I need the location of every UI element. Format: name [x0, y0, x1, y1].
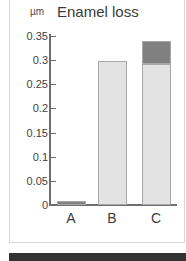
- y-axis-tick: [51, 181, 56, 182]
- y-axis-tick: [51, 108, 56, 109]
- bar-a: [57, 201, 86, 205]
- y-axis-tick: [51, 36, 56, 37]
- bottom-strip: [9, 253, 186, 261]
- y-axis-tick-label: 0.1: [33, 151, 48, 163]
- bar-segment-light-segment: [98, 61, 127, 205]
- y-axis-tick: [51, 60, 56, 61]
- y-axis-tick: [51, 157, 56, 158]
- y-axis-tick-label: 0.35: [27, 30, 48, 42]
- y-axis-tick: [51, 133, 56, 134]
- x-axis-label-a: A: [66, 210, 75, 226]
- x-axis-label-c: C: [151, 210, 161, 226]
- bar-segment-dark-segment: [142, 41, 171, 64]
- x-axis-label-b: B: [107, 210, 116, 226]
- chart-panel: µm Enamel loss 00.050.10.150.20.250.30.3…: [0, 0, 186, 261]
- y-axis-tick-label: 0.25: [27, 78, 48, 90]
- y-axis-tick-label: 0.3: [33, 54, 48, 66]
- y-axis-tick-label: 0.2: [33, 102, 48, 114]
- bar-segment-light-segment: [142, 64, 171, 205]
- bar-b: [98, 61, 127, 205]
- y-axis-tick: [51, 84, 56, 85]
- plot-area: 00.050.10.150.20.250.30.35ABC: [0, 0, 186, 243]
- bar-c: [142, 41, 171, 205]
- y-axis-tick-label: 0: [42, 199, 48, 211]
- y-axis-tick: [51, 205, 56, 206]
- y-axis-tick-label: 0.15: [27, 127, 48, 139]
- y-axis-tick-label: 0.05: [27, 175, 48, 187]
- bar-segment-dark-segment: [57, 201, 86, 205]
